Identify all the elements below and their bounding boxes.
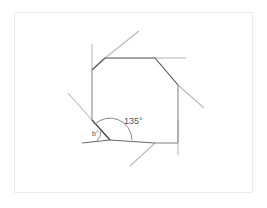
octagon-outline	[92, 58, 178, 143]
extension-line-right-upper-diagonal	[178, 85, 204, 108]
figure-root: 135° b°	[0, 0, 267, 208]
exterior-angle-label: b°	[92, 130, 99, 137]
octagon-side-top-right	[155, 58, 178, 85]
geometry-diagram: 135° b°	[0, 0, 267, 208]
extension-lines	[68, 31, 204, 166]
extension-line-bottom-baseline	[82, 140, 110, 143]
extension-line-left-lower-diagonal	[68, 93, 92, 120]
octagon-side-bottom	[110, 140, 155, 143]
extension-line-top-left-diagonal	[105, 31, 139, 58]
extension-line-bottom-right-diagonal	[130, 143, 155, 166]
octagon-side-top-left	[92, 58, 105, 70]
interior-angle-label: 135°	[124, 116, 143, 126]
